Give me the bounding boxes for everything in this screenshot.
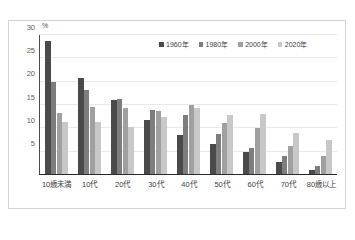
legend-item[interactable]: 1980年 [199, 41, 229, 48]
bar-group [106, 35, 139, 174]
y-axis-tick-label: 20 [27, 70, 35, 78]
bar [144, 120, 149, 174]
bar [45, 41, 50, 174]
bar-group [238, 35, 271, 174]
legend-swatch-icon [238, 42, 243, 47]
x-axis-tick-label: 10歳未満 [40, 181, 73, 189]
bar [111, 100, 116, 174]
bar [95, 122, 100, 174]
bar [117, 99, 122, 173]
x-axis-tick-label: 10代 [73, 181, 106, 189]
legend-label: 2020年 [285, 41, 308, 48]
y-axis-tick-label: 10 [27, 117, 35, 125]
legend-item[interactable]: 2000年 [238, 41, 268, 48]
bar [78, 78, 83, 174]
bar [288, 146, 293, 174]
legend-swatch-icon [199, 42, 204, 47]
bar [293, 133, 298, 174]
legend-label: 1960年 [166, 41, 189, 48]
y-axis-tick-label: 5 [31, 140, 35, 148]
bar [128, 127, 133, 174]
y-axis-unit-label: % [42, 22, 48, 29]
bar [243, 152, 248, 174]
x-axis-tick-label: 80歳以上 [305, 181, 338, 189]
legend-label: 1980年 [206, 41, 229, 48]
bar [249, 148, 254, 174]
bar [260, 114, 265, 174]
legend-item[interactable]: 1960年 [159, 41, 189, 48]
bar-series-layer [40, 35, 337, 174]
bar [161, 117, 166, 174]
bar [57, 113, 62, 173]
legend-swatch-icon [278, 42, 283, 47]
x-axis-tick-label: 40代 [172, 181, 205, 189]
bar-group [304, 35, 337, 174]
x-axis-tick-label: 20代 [106, 181, 139, 189]
x-axis-tick-labels: 10歳未満10代20代30代40代50代60代70代80歳以上 [40, 181, 338, 189]
bar-group [139, 35, 172, 174]
legend-swatch-icon [159, 42, 164, 47]
bar [150, 110, 155, 174]
bar [90, 107, 95, 174]
x-axis-tick-label: 60代 [239, 181, 272, 189]
bar [189, 105, 194, 173]
bar-group [205, 35, 238, 174]
bar-group [271, 35, 304, 174]
y-axis-tick-label: 30 [27, 24, 35, 32]
bar [123, 108, 128, 174]
plot-area: % 51015202530 [39, 35, 337, 175]
x-axis-tick-label: 50代 [206, 181, 239, 189]
x-axis-tick-label: 30代 [139, 181, 172, 189]
bar [227, 115, 232, 173]
legend-item[interactable]: 2020年 [278, 41, 308, 48]
y-axis-tick-label: 15 [27, 94, 35, 102]
bar [84, 90, 89, 173]
bar [276, 162, 281, 174]
legend-label: 2000年 [245, 41, 268, 48]
x-axis-tick-label: 70代 [272, 181, 305, 189]
bar [255, 128, 260, 173]
bar-group [73, 35, 106, 174]
bar [315, 166, 320, 174]
y-axis-tick-label: 25 [27, 47, 35, 55]
bar [62, 122, 67, 174]
bar [194, 108, 199, 174]
bar [326, 140, 331, 174]
bar [177, 135, 182, 173]
bar [51, 82, 56, 173]
bar [321, 156, 326, 173]
chart-frame: % 51015202530 10歳未満10代20代30代40代50代60代70代… [8, 20, 346, 209]
chart-legend: 1960年1980年2000年2020年 [159, 41, 307, 48]
bar-group [40, 35, 73, 174]
bar [183, 115, 188, 174]
bar [210, 144, 215, 173]
bar [222, 123, 227, 174]
bar-group [172, 35, 205, 174]
bar [216, 134, 221, 174]
x-axis-line [39, 174, 337, 176]
bar [282, 156, 287, 173]
bar [156, 111, 161, 174]
